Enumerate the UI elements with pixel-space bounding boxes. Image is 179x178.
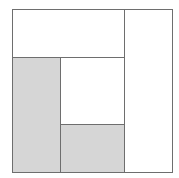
region-middle [60,57,125,125]
region-left-shaded [12,57,61,173]
region-bottom-middle-shaded [60,124,125,173]
region-right [124,9,173,173]
region-top [12,9,125,58]
